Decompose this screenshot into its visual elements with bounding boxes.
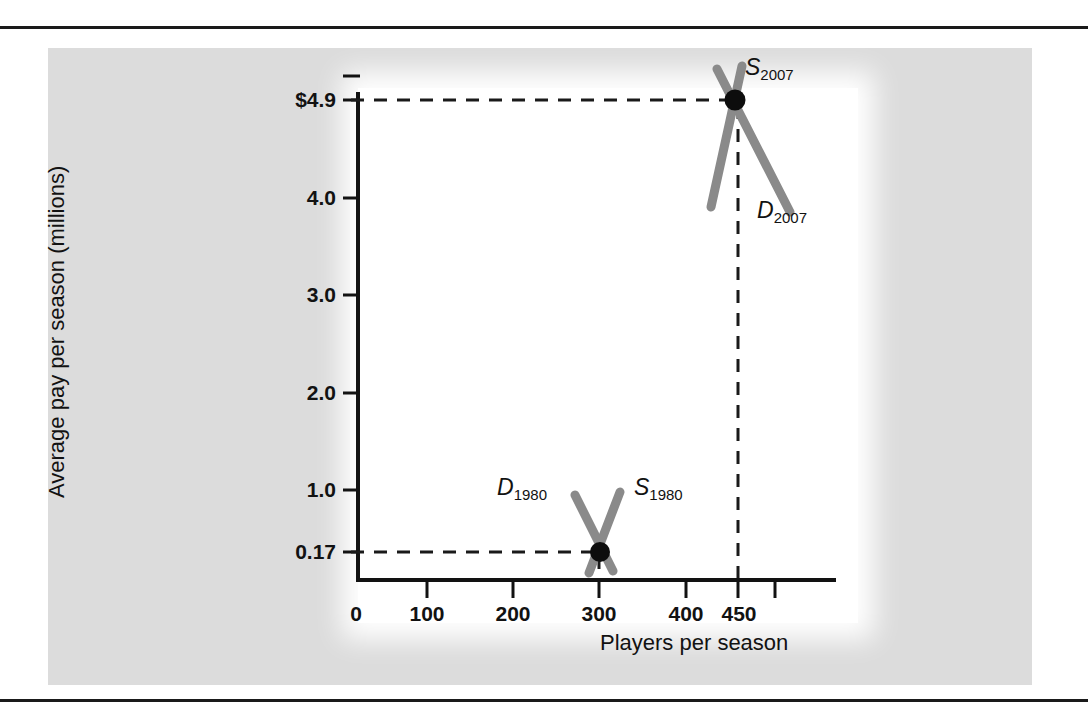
equilibrium-point-1980 [590,542,610,562]
y-tick-label-4-9: $4.9 [236,88,336,112]
curve-label-s-2007-sub: 2007 [760,66,793,83]
y-tick-label-2-0: 2.0 [236,381,336,405]
curve-label-s-2007: S2007 [745,54,794,83]
curve-label-s-1980-sub: 1980 [649,486,682,503]
curve-label-s-2007-letter: S [745,54,760,80]
x-tick-label-300: 300 [559,602,639,626]
curve-label-d-2007-sub: 2007 [774,209,807,226]
curve-label-d-1980-letter: D [497,474,514,500]
guide-lines [351,100,738,578]
x-tick-label-100: 100 [387,602,467,626]
y-tick-label-0-17: 0.17 [236,540,336,564]
x-tick-label-0: 0 [316,602,396,626]
x-axis-title: Players per season [600,630,788,656]
curve-label-d-1980: D1980 [497,474,547,503]
x-tick-label-450: 450 [699,602,779,626]
curves-2007 [711,66,790,212]
equilibrium-point-2007 [725,90,746,111]
figure-root: $4.9 4.0 3.0 2.0 1.0 0.17 0 100 200 300 … [0,0,1088,724]
y-tick-label-1-0: 1.0 [236,478,336,502]
y-tick-label-3-0: 3.0 [236,283,336,307]
curve-label-s-1980-letter: S [634,474,649,500]
curve-label-d-1980-sub: 1980 [514,486,547,503]
y-tick-label-4-0: 4.0 [236,186,336,210]
x-axis-ticks [427,580,775,598]
curve-label-d-2007-letter: D [757,197,774,223]
y-axis-title: Average pay per season (millions) [44,168,70,498]
curve-label-s-1980: S1980 [634,474,683,503]
curve-label-d-2007: D2007 [757,197,807,226]
x-tick-label-200: 200 [473,602,553,626]
